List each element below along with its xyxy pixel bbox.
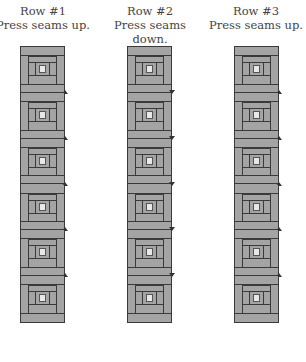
bottom-strip	[128, 313, 171, 322]
ring-right	[156, 155, 163, 167]
ring-right	[49, 109, 56, 121]
left-strip	[21, 148, 29, 176]
right-strip	[270, 285, 278, 313]
center-ring	[136, 62, 163, 76]
center-ring	[243, 62, 270, 76]
top-strip	[21, 230, 64, 239]
ring-right	[49, 292, 56, 304]
right-strip	[270, 148, 278, 176]
quilt-block	[235, 230, 278, 276]
top-strip	[21, 276, 64, 285]
quilt-block	[21, 230, 64, 276]
center-square	[39, 111, 46, 119]
center-square	[39, 65, 46, 73]
center-ring	[136, 245, 163, 259]
top-strip	[128, 139, 171, 148]
right-strip	[56, 148, 64, 176]
right-strip	[56, 285, 64, 313]
left-strip	[128, 194, 136, 222]
quilt-block	[235, 185, 278, 231]
bottom-strip	[128, 130, 171, 139]
center-ring	[136, 108, 163, 122]
center-ring	[136, 291, 163, 305]
right-strip	[163, 194, 171, 222]
center-square	[146, 111, 153, 119]
left-strip	[128, 285, 136, 313]
center-ring	[29, 62, 56, 76]
center-ring	[29, 245, 56, 259]
ring-left	[29, 201, 36, 213]
ring-right	[156, 292, 163, 304]
top-strip	[128, 230, 171, 239]
center-square	[146, 294, 153, 302]
ring-right	[263, 246, 270, 258]
top-strip	[21, 185, 64, 194]
ring-right	[49, 63, 56, 75]
right-strip	[270, 239, 278, 267]
left-strip	[128, 56, 136, 84]
ring-right	[263, 201, 270, 213]
top-strip	[235, 185, 278, 194]
center-ring	[243, 245, 270, 259]
center-ring	[29, 200, 56, 214]
center-square	[146, 65, 153, 73]
left-strip	[235, 148, 243, 176]
top-strip	[235, 139, 278, 148]
ring-right	[49, 201, 56, 213]
bottom-strip	[235, 175, 278, 184]
right-strip	[270, 56, 278, 84]
center-ring	[136, 154, 163, 168]
right-strip	[270, 102, 278, 130]
right-strip	[56, 194, 64, 222]
top-strip	[235, 230, 278, 239]
quilt-block	[128, 47, 171, 93]
left-strip	[128, 148, 136, 176]
ring-left	[243, 246, 250, 258]
ring-left	[243, 201, 250, 213]
top-strip	[21, 93, 64, 102]
center-square	[146, 248, 153, 256]
ring-right	[263, 292, 270, 304]
center-ring	[243, 291, 270, 305]
left-strip	[235, 102, 243, 130]
top-strip	[128, 276, 171, 285]
ring-right	[263, 109, 270, 121]
row-title: Row #3	[201, 4, 306, 18]
top-strip	[235, 47, 278, 56]
left-strip	[235, 239, 243, 267]
left-strip	[21, 102, 29, 130]
bottom-strip	[21, 84, 64, 93]
quilt-row-strip-3	[234, 46, 279, 323]
quilt-block	[128, 93, 171, 139]
bottom-strip	[235, 84, 278, 93]
quilt-block	[235, 47, 278, 93]
ring-left	[29, 109, 36, 121]
bottom-strip	[21, 175, 64, 184]
row-label-2: Row #2Press seams down.	[95, 4, 205, 46]
center-square	[253, 203, 260, 211]
quilt-row-strip-2	[127, 46, 172, 323]
center-square	[253, 157, 260, 165]
center-square	[39, 294, 46, 302]
row-instruction: Press seams down.	[95, 18, 205, 46]
center-square	[253, 248, 260, 256]
center-square	[253, 111, 260, 119]
ring-left	[136, 109, 143, 121]
left-strip	[21, 285, 29, 313]
center-square	[253, 294, 260, 302]
top-strip	[21, 139, 64, 148]
ring-left	[29, 292, 36, 304]
quilt-block	[21, 139, 64, 185]
top-strip	[235, 93, 278, 102]
center-ring	[243, 200, 270, 214]
ring-left	[243, 109, 250, 121]
quilt-block	[21, 185, 64, 231]
bottom-strip	[21, 313, 64, 322]
quilt-block	[128, 230, 171, 276]
quilt-row-strip-1	[20, 46, 65, 323]
top-strip	[21, 47, 64, 56]
center-square	[146, 157, 153, 165]
quilt-block	[235, 276, 278, 322]
right-strip	[56, 56, 64, 84]
bottom-strip	[235, 221, 278, 230]
